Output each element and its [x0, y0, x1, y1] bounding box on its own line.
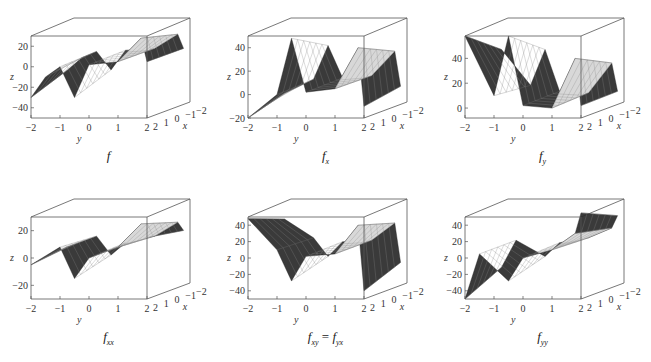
x-tick-label: −1: [619, 290, 630, 301]
x-tick-label: −2: [413, 286, 424, 297]
y-tick-label: 1: [333, 303, 338, 314]
z-tick-label: 0: [457, 253, 462, 264]
y-tick-label: −2: [243, 122, 254, 133]
y-tick-label: −1: [55, 122, 66, 133]
surface-mesh-dark: [465, 213, 618, 299]
z-axis-label: z: [9, 252, 14, 263]
y-tick-label: −2: [243, 303, 254, 314]
y-tick-label: 0: [521, 303, 526, 314]
x-tick-label: 2: [587, 121, 592, 132]
z-tick-label: 0: [457, 103, 462, 114]
x-tick-label: 1: [598, 117, 603, 128]
y-tick-label: −1: [489, 303, 500, 314]
plot-caption: fyy: [434, 329, 651, 347]
x-tick-label: 0: [392, 294, 397, 305]
z-axis-label: z: [443, 71, 448, 82]
z-tick-label: 40: [452, 53, 462, 64]
z-tick-label: 20: [452, 78, 462, 89]
y-tick-label: 0: [521, 122, 526, 133]
y-tick-label: 1: [550, 122, 555, 133]
z-tick-label: 0: [240, 89, 245, 100]
x-tick-label: 1: [164, 298, 169, 309]
x-tick-label: −1: [185, 109, 196, 120]
y-tick-label: −1: [489, 122, 500, 133]
y-tick-label: 0: [304, 303, 309, 314]
z-tick-label: 20: [235, 236, 245, 247]
y-axis-label: y: [510, 314, 516, 325]
y-tick-label: 2: [579, 303, 584, 314]
x-tick-label: 2: [587, 302, 592, 313]
y-tick-label: 2: [145, 122, 150, 133]
y-tick-label: 1: [116, 122, 121, 133]
x-tick-label: −2: [196, 105, 207, 116]
surface-plot-panel: 200−20z−2−1012y210−1−2xfxx: [0, 181, 217, 362]
y-tick-label: −2: [460, 122, 471, 133]
z-tick-label: 20: [452, 236, 462, 247]
z-tick-label: −20: [12, 280, 28, 291]
z-tick-label: 40: [452, 220, 462, 231]
x-tick-label: 2: [370, 302, 375, 313]
x-tick-label: 1: [381, 298, 386, 309]
y-tick-label: 2: [362, 122, 367, 133]
y-tick-label: −1: [272, 303, 283, 314]
y-tick-label: 1: [116, 303, 121, 314]
x-tick-label: 0: [609, 294, 614, 305]
y-axis-label: y: [293, 314, 299, 325]
plot-caption: fx: [217, 148, 434, 166]
surface-plot: 40200−20−40z−2−1012y210−1−2x: [217, 181, 434, 341]
y-tick-label: 0: [304, 122, 309, 133]
z-tick-label: −20: [446, 269, 462, 280]
x-tick-label: 0: [609, 113, 614, 124]
x-tick-label: −2: [196, 286, 207, 297]
x-axis-label: x: [399, 301, 405, 312]
x-axis-label: x: [399, 120, 405, 131]
surface-plot: 200−20−40z−2−1012y210−1−2x: [0, 0, 217, 160]
z-tick-label: 0: [23, 253, 28, 264]
z-axis-label: z: [226, 71, 231, 82]
surface-plot-panel: 40200−20−40z−2−1012y210−1−2xfyy: [434, 181, 651, 362]
x-tick-label: 2: [153, 121, 158, 132]
x-tick-label: −1: [185, 290, 196, 301]
y-tick-label: −2: [26, 122, 37, 133]
z-tick-label: −40: [229, 285, 245, 296]
surface-plot: 40200−20z−2−1012y210−1−2x: [217, 0, 434, 160]
x-tick-label: 1: [164, 117, 169, 128]
x-tick-label: 0: [175, 113, 180, 124]
x-tick-label: −1: [402, 290, 413, 301]
y-tick-label: −2: [460, 303, 471, 314]
x-tick-label: 1: [381, 117, 386, 128]
plot-caption: f: [0, 148, 217, 164]
y-tick-label: −1: [55, 303, 66, 314]
x-tick-label: 0: [392, 113, 397, 124]
z-tick-label: 20: [18, 41, 28, 52]
surface-plot: 40200−20−40z−2−1012y210−1−2x: [434, 181, 651, 341]
z-tick-label: 40: [235, 42, 245, 53]
y-tick-label: 2: [145, 303, 150, 314]
y-tick-label: 2: [579, 122, 584, 133]
y-tick-label: −2: [26, 303, 37, 314]
y-tick-label: 2: [362, 303, 367, 314]
x-tick-label: −1: [402, 109, 413, 120]
y-tick-label: 0: [87, 303, 92, 314]
plot-caption: fxy = fyx: [217, 329, 434, 347]
x-axis-label: x: [616, 120, 622, 131]
z-tick-label: 0: [240, 253, 245, 264]
plot-caption: fy: [434, 148, 651, 166]
z-tick-label: −40: [12, 102, 28, 113]
y-tick-label: 0: [87, 122, 92, 133]
x-tick-label: 1: [598, 298, 603, 309]
surface-plot: 40200z−2−1012y210−1−2x: [434, 0, 651, 160]
surface-plot-panel: 40200z−2−1012y210−1−2xfy: [434, 0, 651, 181]
x-tick-label: −2: [630, 105, 641, 116]
x-tick-label: 2: [370, 121, 375, 132]
y-axis-label: y: [293, 133, 299, 144]
z-tick-label: 20: [235, 66, 245, 77]
y-axis-label: y: [510, 133, 516, 144]
z-axis-label: z: [9, 71, 14, 82]
y-tick-label: 1: [333, 122, 338, 133]
surface-plot-panel: 200−20−40z−2−1012y210−1−2xf: [0, 0, 217, 181]
y-axis-label: y: [76, 133, 82, 144]
x-tick-label: −2: [413, 105, 424, 116]
y-tick-label: −1: [272, 122, 283, 133]
x-tick-label: 0: [175, 294, 180, 305]
